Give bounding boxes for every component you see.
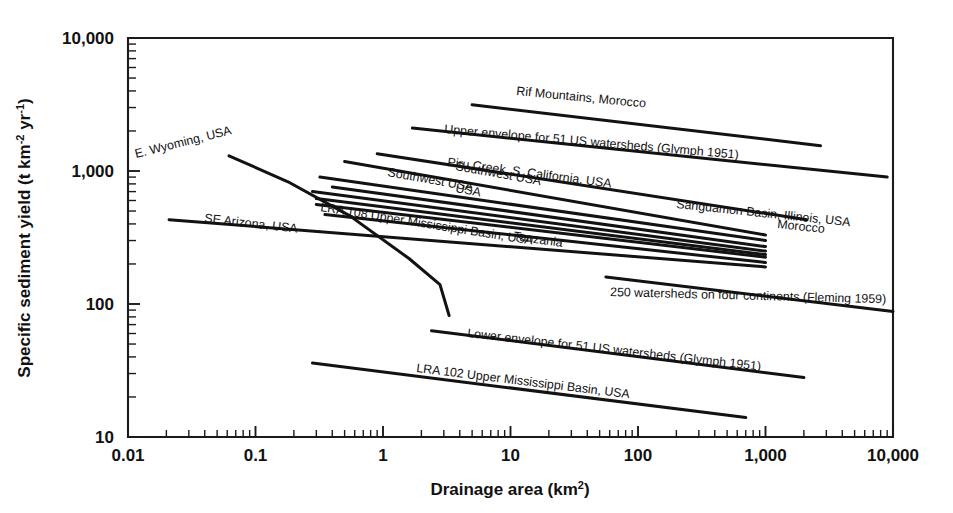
figure-container: 0.010.11101001,00010,000101001,00010,000… <box>0 0 953 513</box>
y-tick-label-2: 1,000 <box>71 162 114 181</box>
series-label-13: Lower envelope for 51 US watersheds (Gly… <box>467 326 762 373</box>
x-tick-label-0: 0.01 <box>111 446 144 465</box>
series-line-14 <box>313 363 746 418</box>
y-tick-label-0: 10 <box>95 428 114 447</box>
series-label-12: 250 watersheds on four continents (Flemi… <box>610 285 886 306</box>
x-tick-label-2: 1 <box>378 446 387 465</box>
x-tick-label-4: 100 <box>624 446 652 465</box>
series-label-11: SE Arizona, USA <box>204 211 299 236</box>
sediment-yield-chart: 0.010.11101001,00010,000101001,00010,000… <box>0 0 953 513</box>
data-series-group <box>169 105 893 418</box>
x-tick-label-5: 1,000 <box>744 446 787 465</box>
series-labels-group: Rif Mountains, MoroccoUpper envelope for… <box>133 84 886 401</box>
x-tick-label-6: 10,000 <box>867 446 919 465</box>
y-tick-label-1: 100 <box>86 295 114 314</box>
series-label-10: E. Wyoming, USA <box>133 123 233 161</box>
y-tick-label-3: 10,000 <box>62 29 114 48</box>
y-axis-title: Specific sediment yield (t km-2 yr-1) <box>14 98 34 377</box>
x-tick-label-1: 0.1 <box>244 446 268 465</box>
series-label-0: Rif Mountains, Morocco <box>516 84 647 110</box>
x-axis-title: Drainage area (km2) <box>430 479 589 499</box>
series-label-1: Upper envelope for 51 US watersheds (Gly… <box>444 122 740 162</box>
x-tick-label-3: 10 <box>501 446 520 465</box>
tick-labels-group: 0.010.11101001,00010,000101001,00010,000 <box>62 29 919 465</box>
